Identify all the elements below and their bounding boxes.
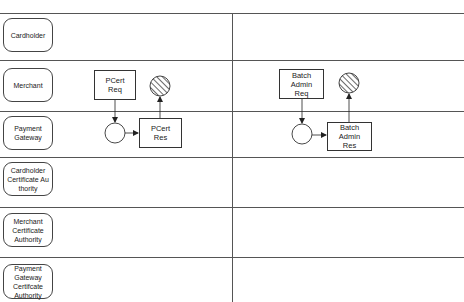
task-pcert-req[interactable]: PCert Req — [94, 70, 136, 100]
lane-label-cardholder-ca: Cardholder Certificate Au thority — [3, 162, 53, 196]
lane-label-payment-gateway: Payment Gateway — [3, 116, 53, 150]
start-event-circle-icon — [105, 123, 125, 143]
phase-divider — [232, 13, 233, 302]
task-batch-admin-res[interactable]: Batch Admin Res — [327, 122, 372, 151]
task-label: Batch Admin Req — [291, 71, 312, 98]
task-pcert-res[interactable]: PCert Res — [139, 118, 182, 148]
end-event-hatched-circle-icon — [150, 76, 170, 96]
task-label: Batch Admin Res — [339, 123, 360, 150]
lane-label-text: Merchant Certificate Authority — [5, 217, 51, 244]
lane-label-text: Merchant — [13, 81, 42, 90]
start-event-circle-icon — [292, 124, 312, 144]
task-batch-admin-req[interactable]: Batch Admin Req — [279, 69, 324, 99]
end-event-hatched-circle-icon — [339, 73, 359, 93]
lane-label-merchant: Merchant — [3, 68, 53, 102]
task-label: PCert Req — [105, 76, 124, 94]
lane-label-text: Cardholder — [11, 31, 46, 40]
task-label: PCert Res — [151, 124, 170, 142]
lane-label-cardholder: Cardholder — [3, 18, 53, 52]
lane-label-text: Cardholder Certificate Au thority — [5, 166, 51, 193]
lane-label-text: Payment Gateway Certifcate Authority — [5, 264, 51, 300]
lane-label-merchant-ca: Merchant Certificate Authority — [3, 213, 53, 247]
lane-label-text: Payment Gateway — [5, 124, 51, 142]
lane-label-pg-ca: Payment Gateway Certifcate Authority — [3, 264, 53, 299]
